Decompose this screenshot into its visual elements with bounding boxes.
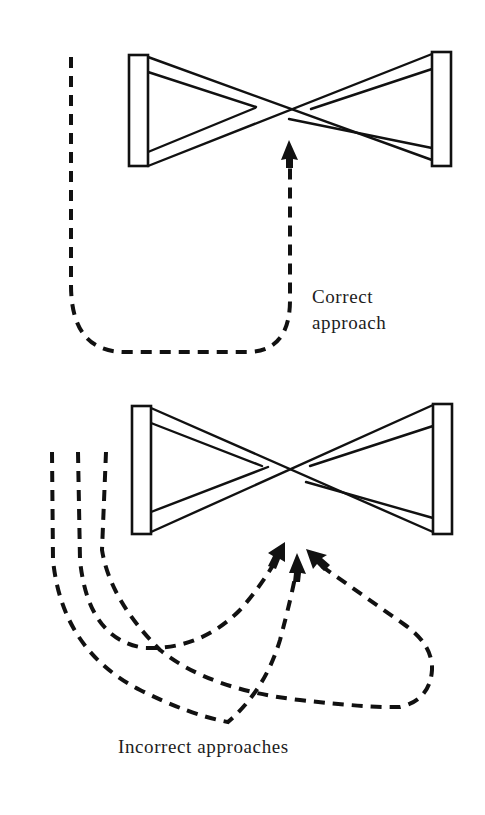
left-post xyxy=(132,406,151,534)
correct-label-line-2: approach xyxy=(312,310,386,336)
incorrect-panel xyxy=(52,404,452,722)
incorrect-approaches-label: Incorrect approaches xyxy=(118,734,289,760)
correct-label-line-1: Correct xyxy=(312,284,386,310)
incorrect-path-sharp-turn xyxy=(52,452,306,722)
correct-approach-label: Correct approach xyxy=(312,284,386,336)
correct-path xyxy=(71,57,298,352)
incorrect-path-short-turn xyxy=(78,452,285,648)
cross-pole-fence-bottom xyxy=(132,404,452,534)
correct-panel xyxy=(71,52,451,352)
arrow-up-icon xyxy=(289,553,306,582)
arrow-icon xyxy=(268,542,285,569)
right-post xyxy=(433,404,452,534)
arrow-up-icon xyxy=(281,140,298,168)
arrow-icon xyxy=(306,549,330,571)
right-post xyxy=(432,52,451,166)
approach-diagram xyxy=(0,0,485,815)
left-post xyxy=(129,55,148,166)
